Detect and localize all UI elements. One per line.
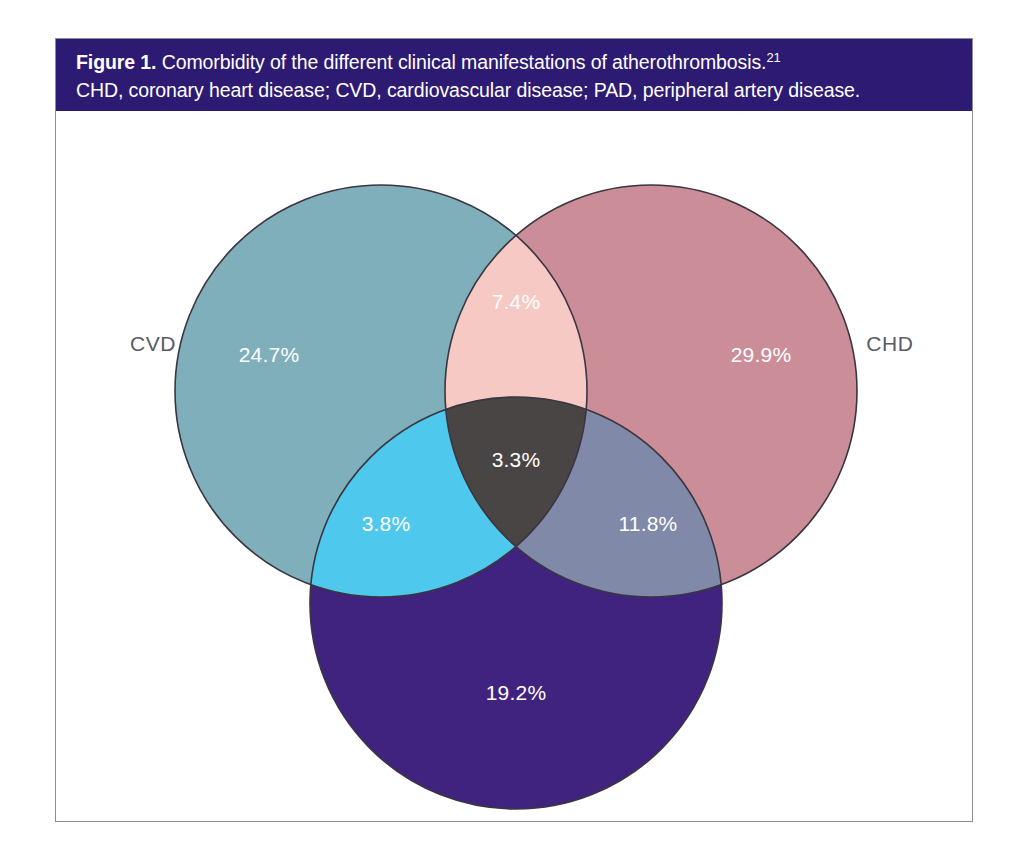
value-label-chd-pad: 11.8% [619,512,678,535]
venn-regions [175,185,857,809]
figure-number-label: Figure 1. [76,51,156,73]
set-label-cvd: CVD [130,332,176,355]
value-label-cvd-only: 24.7% [239,343,300,366]
figure-caption-bar: Figure 1. Comorbidity of the different c… [56,39,972,111]
value-label-pad-only: 19.2% [486,681,547,704]
venn-svg: 24.7% 29.9% 19.2% 7.4% 3.8% 11.8% 3.3% C… [56,111,974,822]
caption-line-2: CHD, coronary heart disease; CVD, cardio… [76,76,954,104]
set-label-chd: CHD [866,332,913,355]
value-label-chd-only: 29.9% [731,343,792,366]
figure-reference-superscript: 21 [766,50,780,65]
value-label-cvd-pad: 3.8% [362,512,411,535]
value-label-cvd-chd: 7.4% [492,290,541,313]
caption-line-1: Figure 1. Comorbidity of the different c… [76,48,954,76]
venn-diagram: 24.7% 29.9% 19.2% 7.4% 3.8% 11.8% 3.3% C… [56,111,972,822]
figure-caption-text: Comorbidity of the different clinical ma… [156,51,766,73]
figure-panel: Figure 1. Comorbidity of the different c… [55,38,973,822]
value-label-cvd-chd-pad: 3.3% [492,448,541,471]
